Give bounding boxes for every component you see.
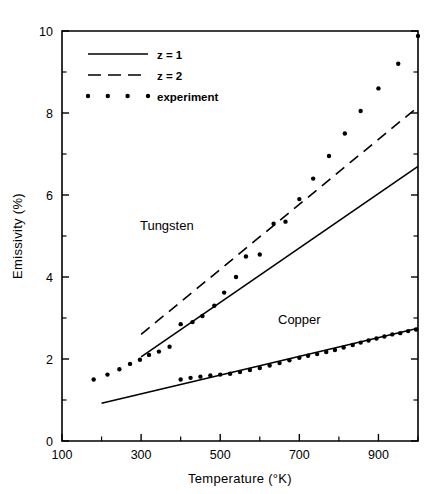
chart-background <box>0 0 441 494</box>
data-point <box>198 374 202 378</box>
series-annotation-tungsten: Tungsten <box>140 218 194 233</box>
data-point <box>297 197 301 201</box>
data-point <box>117 367 121 371</box>
data-point <box>358 109 362 113</box>
x-tick-label: 700 <box>289 448 310 462</box>
data-point <box>396 62 400 66</box>
y-axis-title: Emissivity (%) <box>10 193 25 279</box>
y-tick-label: 8 <box>46 107 53 121</box>
data-point <box>258 252 262 256</box>
data-point <box>222 290 226 294</box>
y-tick-label: 10 <box>39 25 53 39</box>
data-point <box>167 345 171 349</box>
legend-label: z = 2 <box>157 70 182 82</box>
data-point <box>416 34 420 38</box>
y-tick-label: 0 <box>46 435 53 449</box>
data-point <box>105 372 109 376</box>
legend-swatch-dot <box>146 94 150 98</box>
data-point <box>244 254 248 258</box>
legend-label: z = 1 <box>157 49 183 61</box>
data-point <box>234 275 238 279</box>
legend-swatch-dot <box>106 94 110 98</box>
x-tick-label: 500 <box>210 448 231 462</box>
data-point <box>138 358 142 362</box>
data-point <box>311 176 315 180</box>
chart-figure: 100300500700900 0246810 TungstenCopper z… <box>0 0 441 494</box>
y-tick-label: 4 <box>46 271 53 285</box>
data-point <box>188 376 192 380</box>
emissivity-vs-temperature-chart: 100300500700900 0246810 TungstenCopper z… <box>0 0 441 494</box>
data-point <box>178 322 182 326</box>
data-point <box>157 349 161 353</box>
y-tick-label: 6 <box>46 189 53 203</box>
data-point <box>178 377 182 381</box>
x-tick-label: 900 <box>368 448 389 462</box>
data-point <box>343 131 347 135</box>
data-point <box>327 154 331 158</box>
x-tick-label: 100 <box>52 448 73 462</box>
series-annotation-copper: Copper <box>278 312 321 327</box>
legend-label: experiment <box>157 91 219 103</box>
data-point <box>283 219 287 223</box>
x-tick-label: 300 <box>131 448 152 462</box>
data-point <box>376 86 380 90</box>
legend-swatch-dot <box>86 94 90 98</box>
x-axis-title: Temperature (°K) <box>188 471 292 486</box>
y-tick-label: 2 <box>46 353 53 367</box>
legend-swatch-dot <box>125 94 129 98</box>
data-point <box>128 362 132 366</box>
data-point <box>91 377 95 381</box>
